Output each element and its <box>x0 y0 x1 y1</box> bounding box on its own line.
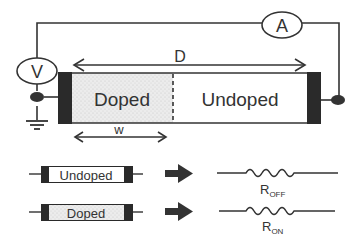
ammeter-label: A <box>276 16 288 36</box>
right-terminal-node <box>331 95 345 105</box>
legend-doped-label: Doped <box>67 206 105 221</box>
length-d-label: D <box>174 48 186 65</box>
left-electrode <box>58 72 72 124</box>
doped-label: Doped <box>94 89 150 110</box>
resistor-off-icon <box>217 170 338 177</box>
length-d-arrow <box>74 59 305 71</box>
legend-row-on: Doped RON <box>29 202 335 236</box>
memristor-diagram: V A D Doped Undoped w <box>0 0 359 243</box>
memristor-device: Doped Undoped <box>58 72 321 124</box>
left-terminal-node <box>30 92 44 102</box>
arrow-right-icon <box>165 202 193 221</box>
undoped-label: Undoped <box>201 89 278 110</box>
arrow-right-icon <box>165 164 193 183</box>
r-on-label: RON <box>262 219 284 236</box>
ground-icon <box>26 121 48 129</box>
right-electrode <box>307 72 321 124</box>
ammeter: A <box>262 12 302 38</box>
legend-undoped-label: Undoped <box>60 168 113 183</box>
resistor-on-icon <box>219 208 335 215</box>
r-off-label: ROFF <box>260 182 286 199</box>
legend-row-off: Undoped ROFF <box>29 164 338 199</box>
voltmeter: V <box>17 58 57 84</box>
voltmeter-label: V <box>31 62 43 82</box>
width-w-label: w <box>113 122 124 137</box>
